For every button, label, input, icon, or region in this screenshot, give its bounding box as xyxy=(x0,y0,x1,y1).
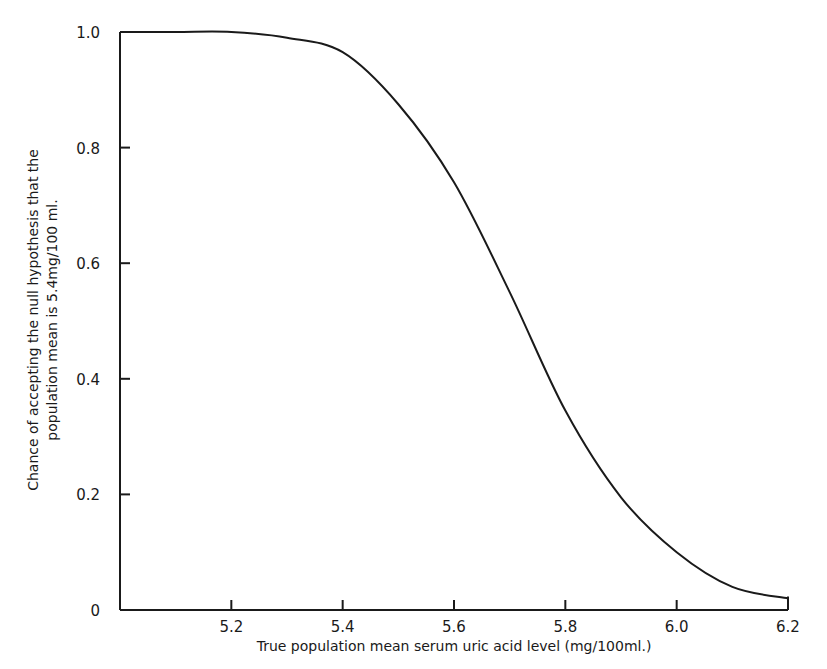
y-axis-title-line-2: population mean is 5.4mg/100 ml. xyxy=(44,199,60,440)
x-tick-label: 5.2 xyxy=(219,618,243,636)
y-tick-label: 0.6 xyxy=(76,255,100,273)
chart-canvas: 5.25.45.65.86.06.2 00.20.40.60.81.0 True… xyxy=(0,0,827,669)
y-tick-label: 0.4 xyxy=(76,371,100,389)
y-tick-label: 1.0 xyxy=(76,24,100,42)
y-tick-label: 0 xyxy=(90,602,100,620)
y-axis-title-line-1: Chance of accepting the null hypothesis … xyxy=(25,149,41,491)
y-tick-label: 0.8 xyxy=(76,140,100,158)
x-tick-label: 6.2 xyxy=(776,618,800,636)
x-axis-title: True population mean serum uric acid lev… xyxy=(256,638,652,654)
y-axis-ticks: 00.20.40.60.81.0 xyxy=(76,24,130,620)
y-axis-title: Chance of accepting the null hypothesis … xyxy=(25,149,60,491)
x-tick-label: 6.0 xyxy=(665,618,689,636)
y-tick-label: 0.2 xyxy=(76,486,100,504)
x-tick-label: 5.6 xyxy=(442,618,466,636)
x-tick-label: 5.4 xyxy=(331,618,355,636)
axes xyxy=(120,32,788,610)
data-line xyxy=(120,32,788,599)
x-axis-ticks: 5.25.45.65.86.06.2 xyxy=(219,600,800,636)
x-tick-label: 5.8 xyxy=(553,618,577,636)
